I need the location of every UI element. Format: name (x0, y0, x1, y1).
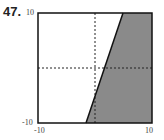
plot (0, 0, 164, 140)
